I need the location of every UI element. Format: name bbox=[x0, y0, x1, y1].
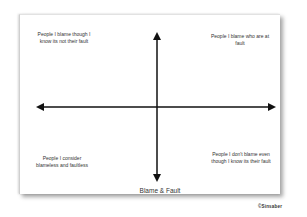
axis-lines bbox=[0, 0, 307, 217]
